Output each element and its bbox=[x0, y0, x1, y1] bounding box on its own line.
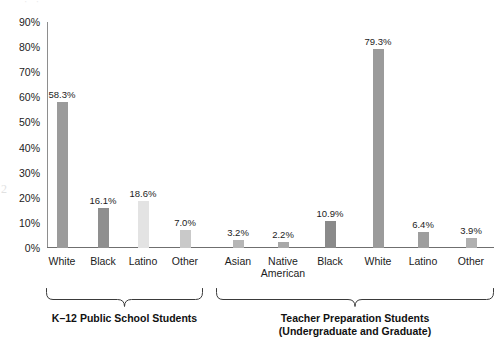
bar bbox=[180, 230, 191, 248]
scan-artifact-top: · · bbox=[24, 0, 42, 7]
bar bbox=[57, 102, 68, 248]
y-axis-tick-label: 80% bbox=[0, 42, 40, 52]
bar bbox=[325, 221, 336, 248]
y-axis-line bbox=[47, 22, 48, 248]
bar bbox=[418, 232, 429, 248]
bar-value-label: 79.3% bbox=[348, 37, 408, 47]
bar-value-label: 2.2% bbox=[253, 230, 313, 240]
category-label-other: Other bbox=[436, 256, 503, 268]
y-axis-tick-label: 20% bbox=[0, 193, 40, 203]
bar bbox=[278, 242, 289, 248]
bar-value-label: 3.9% bbox=[441, 226, 501, 236]
y-axis-tick-label: 50% bbox=[0, 117, 40, 127]
bar-value-label: 7.0% bbox=[155, 218, 215, 228]
y-axis-tick-label: 0% bbox=[0, 243, 40, 253]
group-brace bbox=[46, 288, 203, 308]
y-axis-tick-label: 40% bbox=[0, 143, 40, 153]
group-caption: Teacher Preparation Students (Undergradu… bbox=[205, 312, 503, 337]
group-brace bbox=[216, 288, 494, 308]
bar-value-label: 58.3% bbox=[32, 90, 92, 100]
y-axis-tick-label: 70% bbox=[0, 67, 40, 77]
bar-value-label: 18.6% bbox=[113, 189, 173, 199]
bar bbox=[233, 240, 244, 248]
bar bbox=[466, 238, 477, 248]
y-axis-tick-label: 30% bbox=[0, 168, 40, 178]
bar bbox=[98, 208, 109, 248]
chart-canvas: · · 2 90%80%70%60%50%40%30%20%10%0% 58.3… bbox=[0, 0, 503, 363]
bar bbox=[373, 49, 384, 248]
y-axis-tick-label: 90% bbox=[0, 17, 40, 27]
bar bbox=[138, 201, 149, 248]
bar-value-label: 10.9% bbox=[300, 209, 360, 219]
y-axis-tick-label: 10% bbox=[0, 218, 40, 228]
